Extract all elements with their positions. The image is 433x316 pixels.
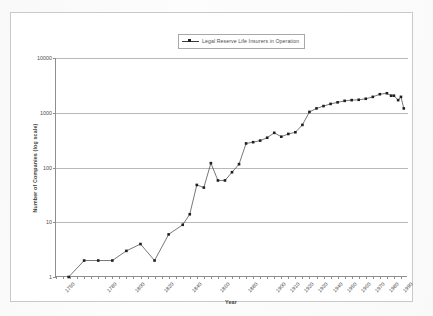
data-point-marker bbox=[196, 184, 199, 187]
data-point-marker bbox=[188, 213, 191, 216]
x-axis-tick-label: 1950 bbox=[345, 281, 357, 293]
x-axis-tick-label: 1860 bbox=[218, 281, 230, 293]
legend-item-label: Legal Reserve Life Insurers in Operation bbox=[202, 38, 299, 45]
x-axis-tick-label: 1940 bbox=[331, 281, 343, 293]
x-axis-tick-label: 1820 bbox=[162, 281, 174, 293]
data-point-marker bbox=[139, 243, 142, 246]
x-axis-tick-label: 1880 bbox=[246, 281, 258, 293]
x-axis-tick-label: 1990 bbox=[401, 281, 413, 293]
chart-legend: Legal Reserve Life Insurers in Operation bbox=[178, 34, 305, 49]
data-point-marker bbox=[67, 276, 70, 279]
series-line bbox=[69, 93, 404, 277]
y-axis-title-text: Number of Companies (log scale) bbox=[32, 123, 38, 212]
y-axis-tick-label: 1 bbox=[49, 274, 52, 280]
data-point-marker bbox=[364, 97, 367, 100]
data-point-marker bbox=[181, 223, 184, 226]
chart-page: Legal Reserve Life Insurers in Operation… bbox=[0, 0, 433, 316]
data-point-marker bbox=[379, 93, 382, 96]
x-axis-tick-label: 1900 bbox=[275, 281, 287, 293]
data-point-marker bbox=[153, 259, 156, 262]
data-point-marker bbox=[167, 233, 170, 236]
x-axis-tick-label: 1920 bbox=[303, 281, 315, 293]
data-point-marker bbox=[125, 250, 128, 253]
data-point-marker bbox=[287, 133, 290, 136]
x-axis-title: Year bbox=[55, 299, 407, 305]
data-point-marker bbox=[280, 135, 283, 138]
data-point-marker bbox=[372, 96, 375, 99]
data-point-marker bbox=[308, 111, 311, 114]
data-point-marker bbox=[402, 107, 405, 110]
x-axis-tick-label: 1960 bbox=[359, 281, 371, 293]
data-point-marker bbox=[329, 103, 332, 106]
y-axis-title: Number of Companies (log scale) bbox=[30, 58, 40, 277]
data-point-marker bbox=[83, 259, 86, 262]
x-axis-tick-label: 1930 bbox=[317, 281, 329, 293]
data-point-marker bbox=[294, 131, 297, 134]
data-point-marker bbox=[224, 179, 227, 182]
data-point-marker bbox=[322, 105, 325, 108]
data-point-marker bbox=[231, 171, 234, 174]
x-axis-tick-label: 1840 bbox=[190, 281, 202, 293]
data-point-marker bbox=[210, 162, 213, 165]
data-point-marker bbox=[238, 163, 241, 166]
data-point-marker bbox=[97, 259, 100, 262]
x-axis-tick-label: 1910 bbox=[289, 281, 301, 293]
data-point-marker bbox=[350, 99, 353, 102]
data-point-marker bbox=[336, 101, 339, 104]
series-plot bbox=[56, 58, 408, 277]
data-point-marker bbox=[259, 139, 262, 142]
data-point-marker bbox=[273, 132, 276, 135]
series-markers bbox=[67, 92, 405, 278]
data-point-marker bbox=[266, 136, 269, 139]
x-axis-tick-label: 1800 bbox=[134, 281, 146, 293]
y-axis-tick-label: 1000 bbox=[40, 110, 52, 116]
data-point-marker bbox=[357, 98, 360, 101]
data-point-marker bbox=[397, 99, 400, 102]
data-point-marker bbox=[390, 94, 393, 97]
x-axis-tick-label: 1750 bbox=[63, 281, 75, 293]
data-point-marker bbox=[217, 179, 220, 182]
x-axis-ticks: 1750178018001820184018601880190019101920… bbox=[56, 276, 408, 316]
y-axis-tick-label: 10 bbox=[46, 219, 52, 225]
x-axis-tick-label: 1780 bbox=[106, 281, 118, 293]
data-point-marker bbox=[315, 107, 318, 110]
plot-area: 100001000100101 175017801800182018401860… bbox=[55, 58, 407, 277]
y-axis-tick-label: 100 bbox=[43, 165, 52, 171]
data-point-marker bbox=[245, 142, 248, 145]
line-marker-icon bbox=[182, 38, 199, 45]
data-point-marker bbox=[203, 186, 206, 189]
data-point-marker bbox=[393, 94, 396, 97]
data-point-marker bbox=[386, 92, 389, 95]
x-axis-tick-label: 1980 bbox=[387, 281, 399, 293]
data-point-marker bbox=[252, 141, 255, 144]
chart-frame: Legal Reserve Life Insurers in Operation… bbox=[10, 12, 413, 302]
data-point-marker bbox=[343, 100, 346, 103]
data-point-marker bbox=[111, 259, 114, 262]
data-point-marker bbox=[400, 96, 403, 99]
data-point-marker bbox=[301, 124, 304, 127]
x-axis-tick-label: 1970 bbox=[373, 281, 385, 293]
y-axis-tick-label: 10000 bbox=[37, 55, 52, 61]
